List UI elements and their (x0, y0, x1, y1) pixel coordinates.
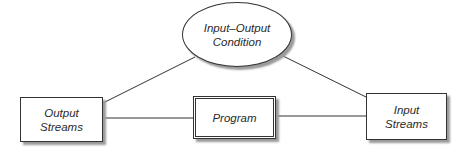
program-node: Program (193, 96, 276, 139)
edge-condition-output (103, 57, 195, 103)
edge-condition-input (283, 56, 366, 97)
input-streams-line2: Streams (385, 117, 428, 131)
output-streams-line1: Output (40, 106, 83, 120)
input-streams-node: Input Streams (366, 93, 447, 140)
condition-label-line2: Condition (204, 35, 271, 49)
input-streams-line1: Input (385, 103, 428, 117)
output-streams-line2: Streams (40, 120, 83, 134)
input-output-condition-node: Input–Output Condition (182, 2, 292, 67)
condition-label-line1: Input–Output (204, 21, 271, 35)
output-streams-node: Output Streams (20, 97, 103, 142)
program-label: Program (212, 111, 256, 125)
